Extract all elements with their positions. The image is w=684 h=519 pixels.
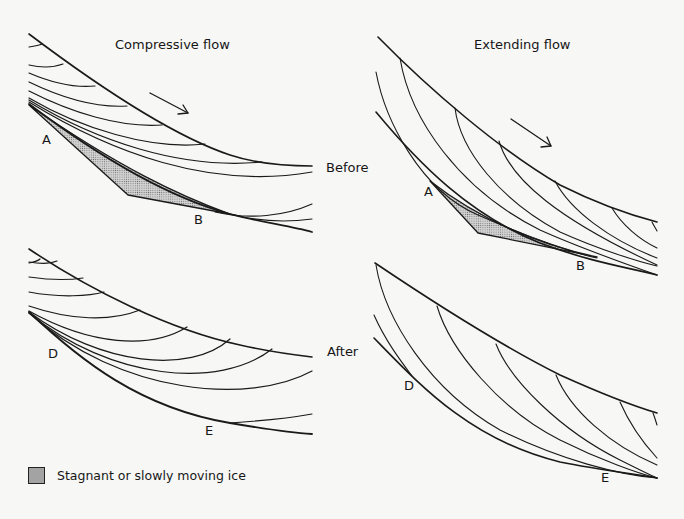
flow-line — [652, 222, 657, 231]
flow-arrow-head — [178, 105, 188, 114]
glacier-flow-diagram: Compressive flow Extending flow Before A… — [0, 0, 684, 519]
stagnant-ice-swatch — [28, 467, 45, 484]
flow-line — [374, 315, 412, 376]
compressive-flow-title: Compressive flow — [115, 38, 230, 51]
flow-line — [230, 414, 312, 423]
flow-line — [653, 413, 657, 425]
flow-arrow-line — [150, 93, 188, 113]
flow-line — [29, 292, 104, 296]
point-d-extending: D — [404, 379, 414, 392]
stagnant-ice-region — [29, 105, 230, 214]
point-a-extending: A — [424, 185, 433, 198]
flow-line — [620, 402, 657, 458]
legend: Stagnant or slowly moving ice — [28, 467, 246, 484]
point-d-compressive: D — [48, 347, 58, 360]
flow-line — [29, 261, 57, 263]
flow-line — [555, 181, 657, 258]
before-label: Before — [326, 161, 369, 174]
point-e-extending: E — [601, 471, 609, 484]
glacier-surface — [375, 263, 657, 413]
glacier-surface — [29, 34, 312, 166]
glacier-surface — [378, 37, 657, 222]
extending-after-panel — [374, 263, 657, 478]
flow-line — [376, 265, 657, 478]
flow-line — [437, 306, 657, 478]
flow-line — [612, 208, 657, 248]
flow-line — [29, 311, 187, 341]
point-a-compressive: A — [42, 133, 51, 146]
legend-label: Stagnant or slowly moving ice — [57, 468, 246, 483]
point-b-extending: B — [576, 259, 585, 272]
after-label: After — [327, 345, 358, 358]
flow-line — [455, 108, 657, 266]
flow-line — [496, 344, 657, 478]
point-b-compressive: B — [194, 213, 203, 226]
point-e-compressive: E — [205, 424, 213, 437]
extending-before-panel — [376, 37, 657, 275]
extending-flow-title: Extending flow — [474, 38, 571, 51]
compressive-before-panel — [29, 34, 312, 232]
compressive-after-panel — [29, 249, 312, 434]
flow-line — [29, 44, 42, 47]
glacier-bed — [376, 112, 657, 275]
flow-line — [29, 64, 63, 67]
flow-line — [556, 375, 657, 465]
flow-line — [29, 306, 140, 318]
flow-arrow-line — [511, 119, 551, 146]
glacier-surface — [29, 249, 312, 357]
